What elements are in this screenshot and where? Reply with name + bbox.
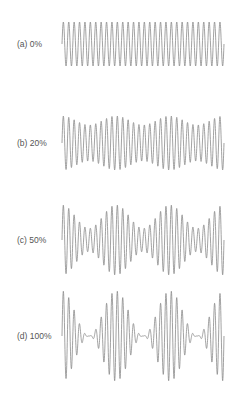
waveform-line-1 [62, 116, 224, 170]
waveform-line-0 [62, 22, 224, 66]
waveform-plot [0, 0, 245, 402]
waveform-line-3 [62, 291, 224, 380]
waveform-line-2 [62, 205, 224, 275]
